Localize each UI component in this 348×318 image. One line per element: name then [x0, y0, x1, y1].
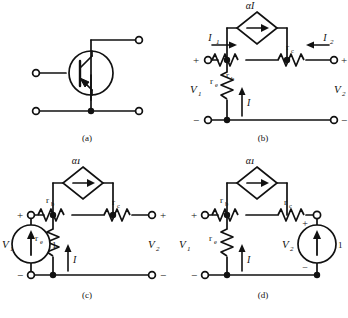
c-node-right-top — [110, 212, 116, 218]
panel-b: αI I 1 I 2 r b r c r e I V 1 V 2 + − + − — [174, 0, 348, 140]
b-i1-arrow-icon — [229, 42, 237, 49]
c-node-mid-bottom — [50, 272, 56, 278]
d-plus-left: + — [191, 209, 197, 221]
c-v2-label: V — [148, 238, 156, 250]
b-i-label: I — [246, 97, 251, 108]
b-source-label: αI — [246, 0, 255, 11]
caption-a: (a) — [67, 133, 107, 143]
b-rb-label: r — [226, 70, 229, 80]
d-v2-sub: 2 — [290, 245, 294, 253]
d-i-label: I — [246, 254, 251, 265]
d-i-arrow-icon — [239, 244, 246, 252]
b-v1-sub: 1 — [198, 90, 202, 98]
d-v2-label: V — [282, 238, 290, 250]
b-rc-sub: c — [291, 47, 294, 54]
panel-a — [0, 0, 174, 140]
c-rc-resistor — [104, 209, 130, 221]
d-rc-resistor — [278, 209, 304, 221]
c-source-value: 1 — [52, 240, 57, 250]
b-i2-sub: 2 — [330, 38, 334, 46]
b-plus-right: + — [341, 54, 347, 66]
c-plus-right: + — [160, 209, 166, 221]
d-terminal-in-plus — [202, 212, 209, 219]
b-i1-label: I — [207, 32, 212, 43]
d-v1-label: V — [179, 238, 187, 250]
b-terminal-in-minus — [205, 117, 212, 124]
c-rb-sub: b — [51, 200, 54, 207]
b-i2-label: I — [322, 32, 327, 43]
caption-d: (d) — [243, 290, 283, 300]
c-rc-sub: c — [117, 202, 120, 209]
b-terminal-out-minus — [331, 117, 338, 124]
d-source-label: αI — [246, 159, 255, 166]
emitter-terminal-left — [33, 108, 40, 115]
caption-b: (b) — [243, 133, 283, 143]
panel-a-schematic — [0, 0, 174, 140]
panel-b-schematic: αI I 1 I 2 r b r c r e I V 1 V 2 + − + − — [174, 0, 348, 140]
b-rb-sub: b — [231, 75, 234, 82]
c-rc-label: r — [112, 197, 115, 207]
circuit-figure: (a) — [0, 0, 348, 318]
d-source-value: 1 — [338, 240, 343, 250]
c-re-sub: e — [40, 238, 43, 245]
base-terminal — [33, 70, 40, 77]
c-v1-sub: 1 — [10, 245, 14, 253]
b-v1-label: V — [190, 83, 198, 95]
c-node-mid-top — [50, 212, 56, 218]
emitter-node-dot — [88, 108, 94, 114]
b-minus-right: − — [341, 114, 347, 126]
panel-c-schematic: αI r b r c r e I V 1 1 V 2 + − + − — [0, 159, 174, 299]
c-terminal-out-minus — [149, 272, 156, 279]
b-terminal-out-plus — [331, 57, 338, 64]
b-terminal-in-plus — [205, 57, 212, 64]
d-minus-left: − — [191, 269, 197, 281]
c-terminal-in-plus — [28, 212, 35, 219]
emitter-terminal-right — [136, 108, 143, 115]
c-rb-label: r — [46, 195, 49, 205]
b-v2-label: V — [334, 83, 342, 95]
b-plus-left: + — [193, 54, 199, 66]
d-re-label: r — [209, 233, 212, 243]
c-minus-left: − — [17, 269, 23, 281]
d-node-right-bottom — [314, 272, 320, 278]
d-rb-label: r — [220, 195, 223, 205]
d-rb-sub: b — [225, 200, 228, 207]
c-terminal-in-minus — [28, 272, 35, 279]
b-minus-left: − — [193, 114, 199, 126]
b-v2-sub: 2 — [342, 90, 346, 98]
b-rc-resistor — [278, 54, 304, 66]
c-minus-right: − — [160, 269, 166, 281]
d-node-mid-bottom — [224, 272, 230, 278]
b-re-sub: e — [215, 81, 218, 88]
panel-c: αI r b r c r e I V 1 1 V 2 + − + − — [0, 159, 174, 299]
b-node-right-top — [284, 57, 290, 63]
b-i2-arrow-icon — [306, 42, 314, 49]
c-source-label: αI — [72, 159, 81, 166]
d-minus-source: − — [302, 262, 308, 273]
c-plus-left: + — [17, 209, 23, 221]
c-v1-label: V — [2, 238, 10, 250]
b-node-mid-top — [224, 57, 230, 63]
d-terminal-in-minus — [202, 272, 209, 279]
d-node-mid-top — [224, 212, 230, 218]
c-v2-sub: 2 — [156, 245, 160, 253]
b-node-mid-bottom — [224, 117, 230, 123]
c-terminal-out-plus — [149, 212, 156, 219]
c-re-label: r — [35, 233, 38, 243]
b-rc-label: r — [286, 42, 289, 52]
c-i-label: I — [72, 254, 77, 265]
b-i-arrow-icon — [239, 87, 246, 95]
panel-d: αI r b r c r e I V 1 V 2 1 + − + − — [174, 159, 348, 299]
caption-c: (c) — [67, 290, 107, 300]
d-re-resistor — [221, 229, 233, 256]
d-plus-source: + — [302, 218, 308, 229]
d-v1-sub: 1 — [187, 245, 191, 253]
b-re-label: r — [210, 76, 213, 86]
c-i-arrow-icon — [65, 244, 72, 252]
d-terminal-source-plus — [313, 211, 320, 218]
collector-terminal — [136, 37, 143, 44]
panel-d-schematic: αI r b r c r e I V 1 V 2 1 + − + − — [174, 159, 348, 299]
d-re-sub: e — [214, 238, 217, 245]
b-i1-sub: 1 — [216, 38, 220, 46]
d-rc-sub: c — [289, 202, 292, 209]
